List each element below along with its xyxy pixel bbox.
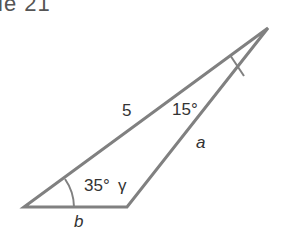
triangle-diagram	[0, 0, 285, 243]
angle-arc-bottom-left	[65, 179, 74, 207]
side-label-a: a	[196, 133, 205, 153]
angle-label-35: 35°	[84, 176, 110, 196]
triangle	[24, 28, 268, 207]
side-label-b: b	[74, 212, 83, 232]
side-label-5: 5	[122, 101, 131, 121]
angle-label-gamma: γ	[118, 176, 127, 196]
angle-label-15: 15°	[172, 100, 198, 120]
